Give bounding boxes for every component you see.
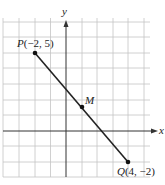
point-Q [126, 160, 131, 165]
label-P: P(−2, 5) [16, 37, 54, 50]
y-axis-label: y [61, 5, 67, 17]
label-M: M [84, 94, 95, 106]
label-Q: Q(4, −2) [117, 165, 155, 178]
y-axis [64, 20, 69, 177]
coordinate-plane: x y P(−2, 5) M Q(4, −2) [0, 0, 165, 185]
x-axis-arrow-icon [151, 129, 158, 134]
y-axis-arrow-icon [64, 20, 69, 27]
point-M [80, 105, 85, 110]
x-axis [3, 129, 158, 134]
point-P [33, 51, 38, 56]
x-axis-label: x [158, 124, 164, 136]
